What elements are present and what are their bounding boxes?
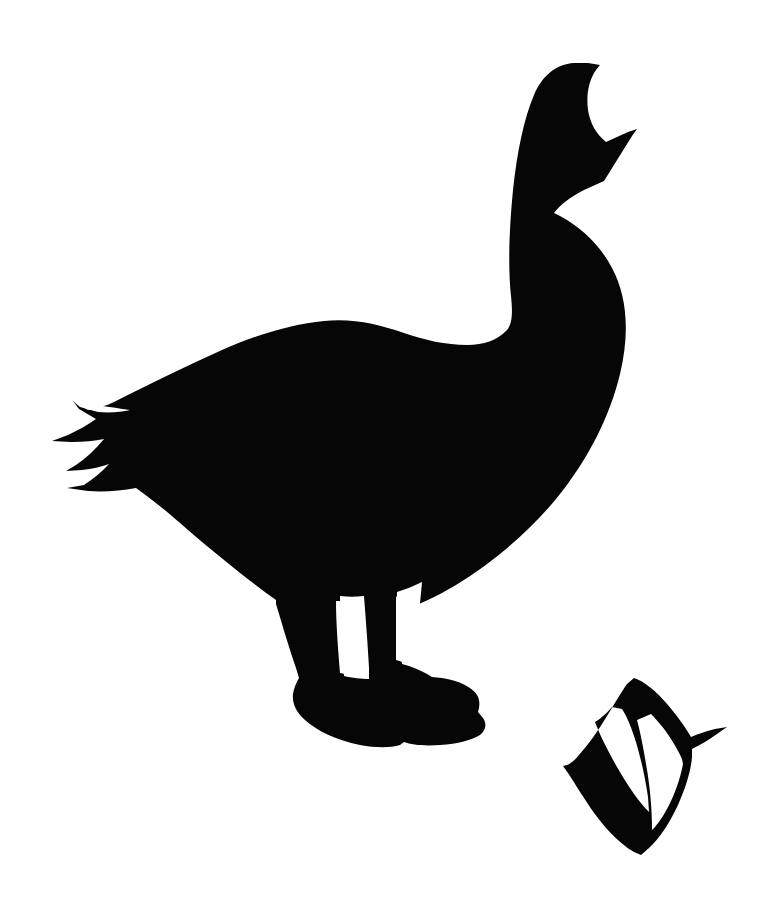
leg-gap-left (340, 596, 369, 679)
silhouette-canvas: Black silhouette of a standing goose fac… (0, 0, 766, 904)
artboard: Black silhouette of a standing goose fac… (0, 0, 766, 904)
